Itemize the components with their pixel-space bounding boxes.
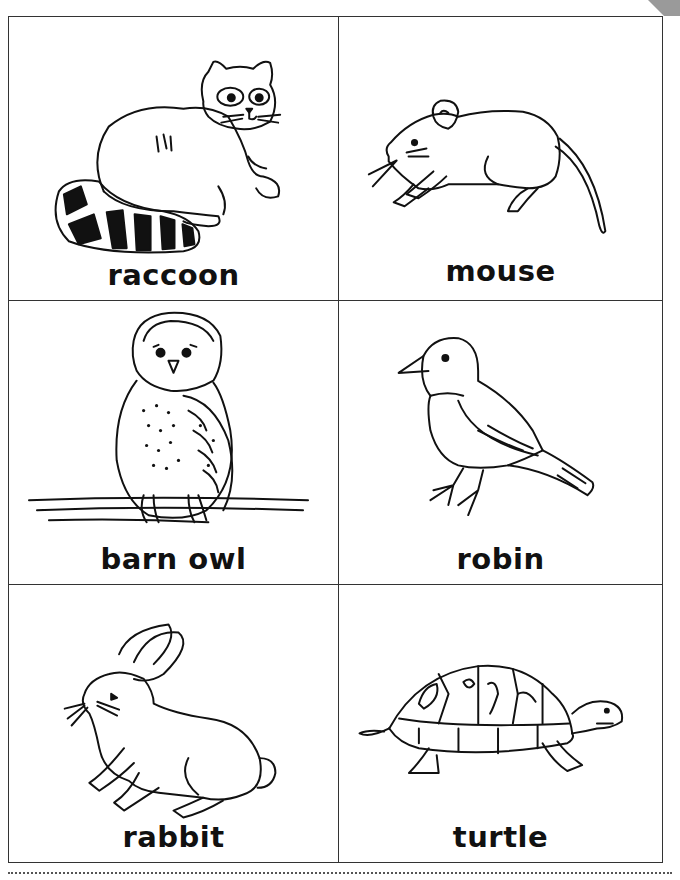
animal-card-grid: raccoon mouse bbox=[8, 16, 663, 863]
card-mouse: mouse bbox=[339, 17, 662, 301]
card-label: raccoon bbox=[9, 258, 338, 292]
card-label: robin bbox=[339, 542, 662, 576]
cut-line bbox=[8, 872, 672, 874]
card-label: barn owl bbox=[9, 542, 338, 576]
card-label: turtle bbox=[339, 820, 662, 854]
card-turtle: turtle bbox=[339, 585, 662, 862]
card-barn-owl: barn owl bbox=[9, 301, 339, 585]
page-corner-tab bbox=[648, 0, 680, 16]
card-raccoon: raccoon bbox=[9, 17, 339, 301]
card-label: rabbit bbox=[9, 820, 338, 854]
card-label: mouse bbox=[339, 254, 662, 288]
card-rabbit: rabbit bbox=[9, 585, 339, 862]
card-robin: robin bbox=[339, 301, 662, 585]
